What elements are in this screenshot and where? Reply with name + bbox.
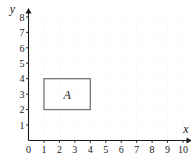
y-tick-label: 5: [20, 58, 25, 69]
x-tick-label: 9: [165, 144, 170, 155]
x-axis-arrow-icon: [187, 138, 192, 144]
grid-horizontal-lines: [29, 17, 186, 125]
x-tick-label: 1: [41, 144, 46, 155]
y-tick-label: 3: [20, 89, 25, 100]
x-axis-label: x: [182, 122, 189, 136]
y-axis-tick-labels: 12345678: [20, 12, 25, 131]
x-tick-label: 3: [72, 144, 77, 155]
y-tick-label: 6: [20, 43, 25, 54]
y-axis-label: y: [9, 2, 16, 16]
x-tick-label: 7: [134, 144, 139, 155]
x-tick-label: 6: [119, 144, 124, 155]
y-axis-arrow-icon: [26, 8, 32, 13]
x-tick-label: 0: [26, 144, 31, 155]
region-label-a: A: [62, 88, 71, 102]
x-tick-label: 10: [178, 144, 188, 155]
x-tick-label: 4: [88, 144, 93, 155]
y-tick-label: 7: [20, 27, 25, 38]
x-tick-label: 2: [57, 144, 62, 155]
coordinate-plane-figure: A 012345678910 12345678 x y: [0, 0, 191, 161]
grid-vertical-lines: [44, 15, 183, 141]
y-tick-label: 1: [20, 120, 25, 131]
x-tick-label: 5: [103, 144, 108, 155]
annotation-labels-layer: A: [62, 88, 71, 102]
plot-canvas: A 012345678910 12345678 x y: [0, 0, 191, 161]
x-tick-label: 8: [150, 144, 155, 155]
x-axis-tick-labels: 012345678910: [26, 144, 188, 155]
y-tick-label: 2: [20, 104, 25, 115]
y-tick-label: 4: [20, 73, 25, 84]
y-tick-label: 8: [20, 12, 25, 23]
